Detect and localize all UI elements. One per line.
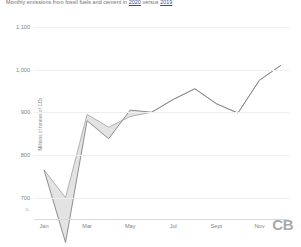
gridline [34, 112, 289, 113]
gridline [34, 70, 289, 71]
y-axis-tick-label: 1,000 [16, 67, 30, 73]
x-axis-line [34, 219, 289, 220]
chart-title-text-middle: versus [141, 0, 160, 5]
x-axis-tick-label: May [125, 223, 136, 230]
x-axis-tick-label: Mar [82, 223, 92, 230]
x-axis-tick-label: Nov [254, 223, 264, 230]
carbon-brief-logo: CB [272, 216, 293, 233]
gridline [34, 27, 289, 28]
chart-title-link-2019[interactable]: 2019 [160, 0, 172, 5]
x-axis-tick-label: Jan [39, 223, 48, 230]
y-axis-break-icon: ≈ [25, 206, 29, 213]
x-axis-tick-label: Jul [170, 223, 177, 230]
x-axis-tick-label: Sept [211, 223, 223, 230]
y-axis-tick-label: 900 [21, 109, 30, 115]
chart-container: Monthly emissions from fossil fuels and … [0, 0, 301, 247]
y-axis-tick-label: 700 [21, 195, 30, 201]
y-axis-tick-label: 800 [21, 152, 30, 158]
gridline [34, 198, 289, 199]
plot-area: 7008009001,0001,100≈ [34, 14, 289, 219]
chart-title: Monthly emissions from fossil fuels and … [6, 0, 296, 6]
shaded-difference-band [44, 65, 281, 242]
y-axis-tick-label: 1,100 [16, 24, 30, 30]
chart-title-link-2020[interactable]: 2020 [129, 0, 141, 5]
gridline [34, 155, 289, 156]
series-lines [34, 14, 289, 219]
series-line-2019 [44, 65, 281, 197]
chart-title-text-before: Monthly emissions from fossil fuels and … [6, 0, 129, 5]
